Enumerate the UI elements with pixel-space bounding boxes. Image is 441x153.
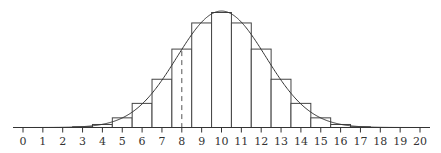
x-tick-label: 19 xyxy=(393,135,407,148)
x-tick-label: 9 xyxy=(198,135,205,148)
x-tick-label: 6 xyxy=(139,135,146,148)
histogram-bar xyxy=(192,23,212,128)
x-tick-label: 18 xyxy=(373,135,387,148)
histogram-bar xyxy=(152,79,172,127)
x-tick-label: 3 xyxy=(79,135,86,148)
binomial-histogram-chart: 01234567891011121314151617181920 xyxy=(0,0,441,153)
histogram-bar xyxy=(231,23,251,128)
histogram-bars xyxy=(73,13,371,128)
x-tick-label: 1 xyxy=(39,135,46,148)
x-tick-label: 8 xyxy=(178,135,185,148)
x-tick-label: 14 xyxy=(294,135,308,148)
x-tick-label: 0 xyxy=(20,135,27,148)
x-tick-label: 7 xyxy=(158,135,165,148)
x-tick-label: 11 xyxy=(234,135,248,148)
x-tick-label: 15 xyxy=(314,135,328,148)
histogram-bar xyxy=(212,13,232,128)
x-axis-ticks: 01234567891011121314151617181920 xyxy=(20,128,428,149)
x-tick-label: 16 xyxy=(334,135,348,148)
x-tick-label: 17 xyxy=(353,135,367,148)
x-tick-label: 10 xyxy=(215,135,229,148)
x-tick-label: 5 xyxy=(119,135,126,148)
histogram-bar xyxy=(291,103,311,127)
x-tick-label: 2 xyxy=(59,135,66,148)
histogram-bar xyxy=(311,118,331,128)
x-tick-label: 4 xyxy=(99,135,106,148)
histogram-bar xyxy=(112,118,132,128)
histogram-bar xyxy=(132,103,152,127)
x-tick-label: 20 xyxy=(413,135,427,148)
x-tick-label: 13 xyxy=(274,135,288,148)
histogram-bar xyxy=(271,79,291,127)
x-tick-label: 12 xyxy=(254,135,268,148)
